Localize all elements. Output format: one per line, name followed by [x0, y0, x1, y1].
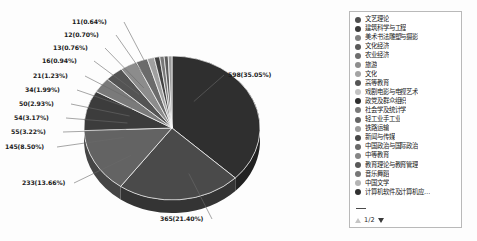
legend-item[interactable]: 计算机软件及计算机应… [355, 188, 461, 197]
legend-divider [356, 208, 366, 209]
legend-item[interactable]: 教育理论与教育管理 [355, 161, 461, 170]
legend-item[interactable]: 铁路运输 [355, 124, 461, 133]
legend-item[interactable]: 美术书法雕塑与摄影 [355, 33, 461, 42]
legend-item[interactable]: 中国文学 [355, 179, 461, 188]
legend-item[interactable]: 政党及群众组织 [355, 97, 461, 106]
legend-item[interactable]: 高等教育 [355, 79, 461, 88]
legend-color-swatch-icon [355, 135, 361, 141]
legend-color-swatch-icon [355, 53, 361, 59]
legend-color-swatch-icon [355, 162, 361, 168]
legend-color-swatch-icon [355, 89, 361, 95]
legend-item-label: 中国政治与国际政治 [365, 142, 418, 151]
triangle-down-icon[interactable] [378, 218, 384, 223]
legend-item-label: 音乐舞蹈 [365, 170, 389, 179]
legend-item-label: 政党及群众组织 [365, 97, 406, 106]
legend-item[interactable]: 农业经济 [355, 51, 461, 60]
triangle-up-icon[interactable] [355, 218, 361, 223]
pie-chart-area: 11(0.64%)12(0.70%)13(0.76%)16(0.94%)21(1… [0, 0, 345, 241]
legend-color-swatch-icon [355, 180, 361, 186]
legend-color-swatch-icon [355, 17, 361, 23]
legend-color-swatch-icon [355, 26, 361, 32]
legend-item-label: 高等教育 [365, 79, 389, 88]
legend-color-swatch-icon [355, 117, 361, 123]
legend-item[interactable]: 文化经济 [355, 42, 461, 51]
legend-item-label: 文化经济 [365, 42, 389, 51]
legend-item[interactable]: 戏剧电影与电视艺术 [355, 88, 461, 97]
pie-slice-value-label: 55(3.22%) [11, 129, 46, 135]
legend-item-label: 美术书法雕塑与摄影 [365, 33, 418, 42]
legend-item-label: 铁路运输 [365, 124, 389, 133]
legend-item-label: 戏剧电影与电视艺术 [365, 88, 418, 97]
legend-item-label: 社会学及统计学 [365, 106, 406, 115]
legend-item-label: 农业经济 [365, 51, 389, 60]
legend-color-swatch-icon [355, 35, 361, 41]
legend-item[interactable]: 中等教育 [355, 151, 461, 160]
legend-item[interactable]: 中国政治与国际政治 [355, 142, 461, 151]
pie-slice-value-label: 11(0.64%) [72, 19, 107, 25]
pie-slice-value-label: 12(0.70%) [64, 32, 99, 38]
legend-pager[interactable]: 1/2 [355, 217, 384, 224]
legend-item-label: 建筑科学与工程 [365, 24, 406, 33]
legend-color-swatch-icon [355, 107, 361, 113]
legend-item[interactable]: 轻工业手工业 [355, 115, 461, 124]
legend-item-label: 中等教育 [365, 151, 389, 160]
legend-item[interactable]: 建筑科学与工程 [355, 24, 461, 33]
pager-label: 1/2 [363, 217, 376, 224]
legend-item-label: 中国文学 [365, 179, 389, 188]
legend-panel: 文艺理论建筑科学与工程美术书法雕塑与摄影文化经济农业经济旅游文化高等教育戏剧电影… [349, 11, 462, 228]
legend-item-label: 旅游 [365, 61, 377, 70]
legend-list: 文艺理论建筑科学与工程美术书法雕塑与摄影文化经济农业经济旅游文化高等教育戏剧电影… [350, 15, 461, 197]
legend-item-label: 轻工业手工业 [365, 115, 400, 124]
legend-color-swatch-icon [355, 189, 361, 195]
pie-slice-group [84, 56, 260, 213]
pie-slice-value-label: 365(21.40%) [160, 216, 203, 222]
legend-item[interactable]: 文艺理论 [355, 15, 461, 24]
legend-item-label: 教育理论与教育管理 [365, 161, 418, 170]
legend-color-swatch-icon [355, 44, 361, 50]
legend-item[interactable]: 旅游 [355, 60, 461, 69]
legend-item-label: 新闻与传媒 [365, 133, 395, 142]
pie-slice-value-label: 13(0.76%) [53, 45, 88, 51]
legend-color-swatch-icon [355, 80, 361, 86]
legend-item[interactable]: 新闻与传媒 [355, 133, 461, 142]
pie-slice-value-label: 598(35.05%) [228, 72, 271, 78]
pie-slice-value-label: 145(8.50%) [5, 144, 44, 150]
legend-item-label: 文艺理论 [365, 15, 389, 24]
legend-item[interactable]: 音乐舞蹈 [355, 170, 461, 179]
legend-color-swatch-icon [355, 98, 361, 104]
legend-color-swatch-icon [355, 71, 361, 77]
pie-slice-value-label: 233(13.66%) [22, 180, 65, 186]
legend-color-swatch-icon [355, 62, 361, 68]
legend-color-swatch-icon [355, 144, 361, 150]
pie-chart-graphic [0, 0, 345, 241]
pie-slice-value-label: 16(0.94%) [42, 58, 77, 64]
legend-color-swatch-icon [355, 171, 361, 177]
legend-item[interactable]: 社会学及统计学 [355, 106, 461, 115]
pie-slice-value-label: 50(2.93%) [19, 101, 54, 107]
legend-item-label: 计算机软件及计算机应… [365, 188, 430, 197]
pie-slice-value-label: 21(1.23%) [33, 73, 68, 79]
pie-slice-value-label: 54(3.17%) [14, 115, 49, 121]
pie-slice-value-label: 34(1.99%) [25, 87, 60, 93]
legend-item-label: 文化 [365, 70, 377, 79]
legend-item[interactable]: 文化 [355, 70, 461, 79]
legend-color-swatch-icon [355, 153, 361, 159]
legend-color-swatch-icon [355, 126, 361, 132]
